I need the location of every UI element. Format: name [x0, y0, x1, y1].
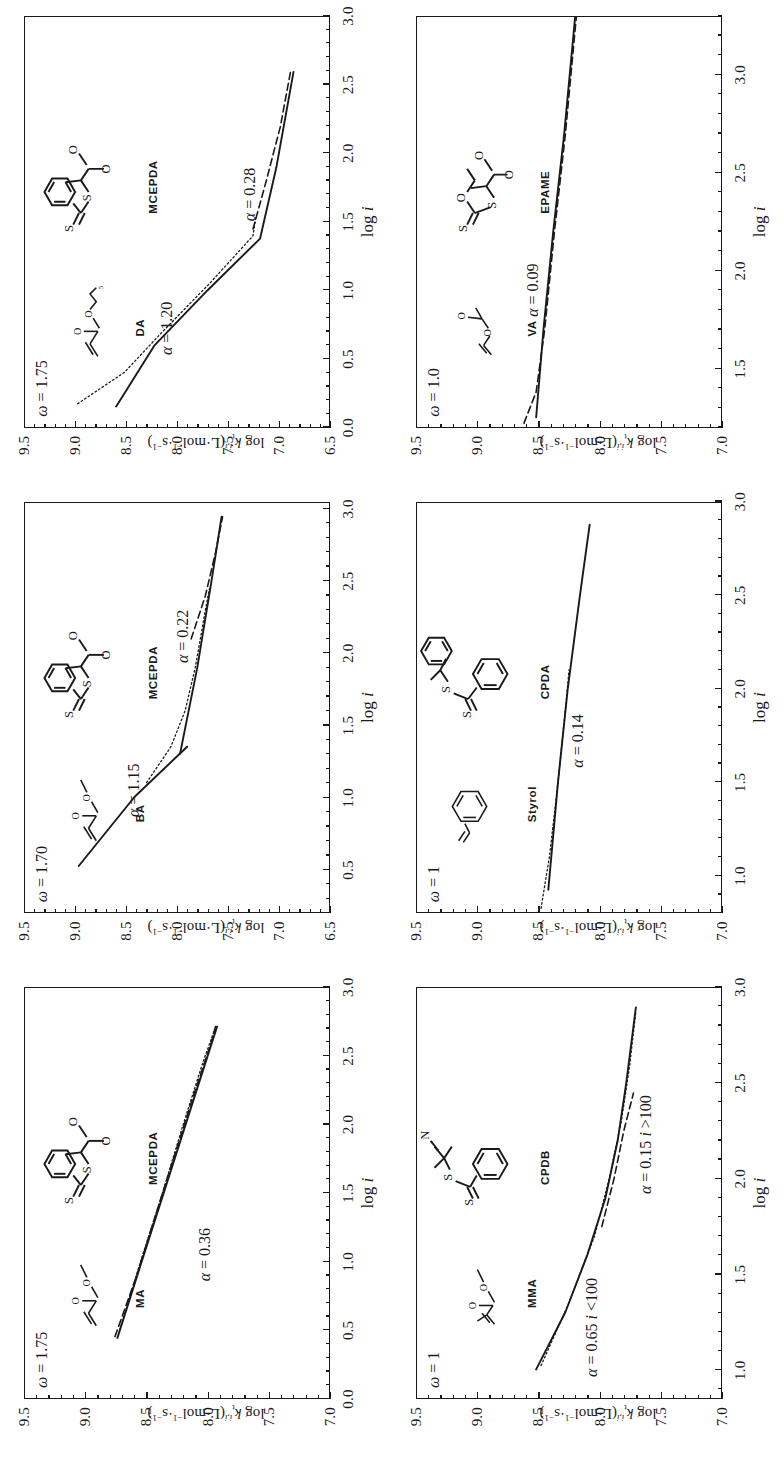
y-tick-minor	[195, 1395, 196, 1399]
y-tick-minor	[320, 909, 321, 913]
y-tick-minor	[624, 424, 625, 428]
y-tick-minor	[167, 424, 168, 428]
omega-label: ω = 1	[425, 866, 443, 902]
x-tick-minor	[326, 710, 330, 711]
x-tick-major	[715, 1082, 722, 1083]
x-tick-minor	[326, 317, 330, 318]
y-tick-minor	[106, 424, 107, 428]
panel-va: ω = 1.0α = 0.09OOVASOSOOEPAME1.52.02.53.…	[392, 0, 784, 486]
x-tick-minor	[326, 1274, 330, 1275]
y-tick-minor	[218, 909, 219, 913]
y-tick-major	[146, 1392, 147, 1399]
y-tick-minor	[526, 1395, 527, 1399]
x-tick-minor	[326, 826, 330, 827]
svg-text:O: O	[472, 151, 486, 160]
svg-text:S: S	[80, 1166, 94, 1173]
x-tick-minor	[718, 557, 722, 558]
x-tick-major	[323, 652, 330, 653]
y-tick-major	[416, 906, 417, 913]
y-tick-minor	[171, 1395, 172, 1399]
x-ticklabel: 0.5	[340, 1321, 357, 1340]
x-tick-minor	[718, 613, 722, 614]
y-tick-minor	[34, 909, 35, 913]
x-tick-minor	[326, 768, 330, 769]
y-tick-major	[330, 906, 331, 913]
x-tick-minor	[326, 1357, 330, 1358]
x-tick-minor	[718, 250, 722, 251]
y-tick-major	[177, 421, 178, 428]
y-tick-minor	[698, 424, 699, 428]
x-tick-minor	[718, 1235, 722, 1236]
x-tick-minor	[718, 1139, 722, 1140]
svg-text:O: O	[83, 311, 94, 318]
x-tick-major	[715, 986, 722, 987]
x-tick-minor	[326, 1233, 330, 1234]
y-tick-minor	[248, 909, 249, 913]
x-tick-minor	[326, 1027, 330, 1028]
y-tick-minor	[575, 909, 576, 913]
y-tick-major	[330, 421, 331, 428]
x-axis-title: log i	[358, 16, 378, 428]
y-ticklabel: 9.5	[16, 436, 33, 455]
x-tick-minor	[718, 1120, 722, 1121]
y-tick-minor	[698, 1395, 699, 1399]
x-tick-major	[715, 270, 722, 271]
y-tick-minor	[526, 424, 527, 428]
omega-label: ω = 1	[425, 1352, 443, 1388]
x-tick-minor	[326, 1165, 330, 1166]
y-tick-minor	[502, 1395, 503, 1399]
x-tick-minor	[326, 609, 330, 610]
x-tick-minor	[326, 811, 330, 812]
x-tick-minor	[326, 97, 330, 98]
y-tick-minor	[95, 424, 96, 428]
svg-text:N: N	[418, 1130, 432, 1139]
y-tick-minor	[269, 909, 270, 913]
y-tick-minor	[453, 1395, 454, 1399]
plot-inner: ω = 1.70α = 1.15α = 0.22OOBASSOOMCEPDA	[25, 503, 329, 913]
x-tick-minor	[326, 594, 330, 595]
x-tick-minor	[718, 328, 722, 329]
x-tick-minor	[718, 152, 722, 153]
y-ticklabel: 9.5	[408, 921, 425, 940]
x-tick-major	[323, 580, 330, 581]
y-tick-minor	[624, 1395, 625, 1399]
y-tick-minor	[673, 424, 674, 428]
x-tick-minor	[718, 1024, 722, 1025]
y-tick-minor	[514, 1395, 515, 1399]
y-tick-minor	[685, 424, 686, 428]
x-tick-minor	[718, 54, 722, 55]
x-tick-minor	[718, 211, 722, 212]
svg-text:O: O	[66, 631, 80, 640]
x-ticklabel: 0.5	[340, 349, 357, 368]
y-tick-minor	[624, 909, 625, 913]
x-axis-title: log i	[750, 987, 770, 1399]
x-ticklabel: 3.0	[732, 65, 749, 84]
y-tick-minor	[551, 909, 552, 913]
y-tick-major	[24, 906, 25, 913]
svg-text:O: O	[456, 312, 467, 319]
svg-text:O: O	[502, 170, 516, 179]
monomer-label: DA	[134, 319, 146, 337]
y-tick-minor	[197, 909, 198, 913]
x-tick-minor	[326, 138, 330, 139]
x-tick-minor	[326, 739, 330, 740]
alpha-annotation: α = 1.20	[158, 302, 176, 355]
y-axis-title: log kti,i(L·mol−1·s−1)	[458, 917, 738, 937]
y-tick-minor	[306, 1395, 307, 1399]
y-tick-minor	[453, 424, 454, 428]
y-tick-minor	[310, 909, 311, 913]
svg-text:S: S	[62, 711, 76, 718]
x-tick-minor	[718, 348, 722, 349]
x-ticklabel: 2.0	[732, 1169, 749, 1188]
x-axis-title: log i	[358, 987, 378, 1399]
y-tick-minor	[34, 424, 35, 428]
x-tick-minor	[718, 893, 722, 894]
y-tick-minor	[526, 909, 527, 913]
y-tick-minor	[116, 909, 117, 913]
x-ticklabel: 3.0	[732, 492, 749, 511]
structure-monomer: OO	[429, 283, 507, 361]
svg-text:O: O	[454, 193, 468, 202]
y-tick-minor	[710, 909, 711, 913]
x-tick-major	[323, 724, 330, 725]
x-tick-minor	[718, 762, 722, 763]
